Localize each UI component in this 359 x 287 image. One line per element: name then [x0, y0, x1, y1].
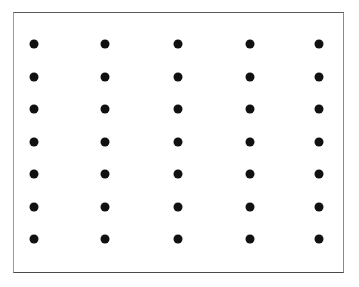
grid-dot — [315, 203, 324, 212]
grid-dot — [315, 73, 324, 82]
grid-dot — [174, 203, 183, 212]
grid-dot — [30, 105, 39, 114]
grid-dot — [315, 138, 324, 147]
grid-dot — [30, 170, 39, 179]
canvas — [0, 0, 359, 287]
grid-dot — [315, 235, 324, 244]
grid-dot — [101, 138, 110, 147]
grid-dot — [101, 40, 110, 49]
grid-dot — [174, 170, 183, 179]
grid-dot — [246, 105, 255, 114]
grid-dot — [246, 138, 255, 147]
grid-dot — [174, 40, 183, 49]
grid-dot — [174, 235, 183, 244]
grid-dot — [315, 105, 324, 114]
grid-dot — [30, 235, 39, 244]
grid-dot — [101, 170, 110, 179]
grid-dot — [30, 73, 39, 82]
grid-dot — [30, 138, 39, 147]
grid-dot — [30, 203, 39, 212]
grid-dot — [246, 203, 255, 212]
grid-dot — [30, 40, 39, 49]
grid-dot — [246, 235, 255, 244]
grid-dot — [246, 40, 255, 49]
grid-dot — [246, 73, 255, 82]
grid-dot — [315, 40, 324, 49]
grid-dot — [315, 170, 324, 179]
grid-dot — [174, 105, 183, 114]
grid-dot — [174, 138, 183, 147]
grid-dot — [101, 203, 110, 212]
grid-dot — [246, 170, 255, 179]
dot-layer — [14, 13, 343, 272]
grid-dot — [101, 73, 110, 82]
grid-dot — [101, 105, 110, 114]
grid-dot — [174, 73, 183, 82]
dot-grid-frame — [13, 12, 344, 273]
grid-dot — [101, 235, 110, 244]
